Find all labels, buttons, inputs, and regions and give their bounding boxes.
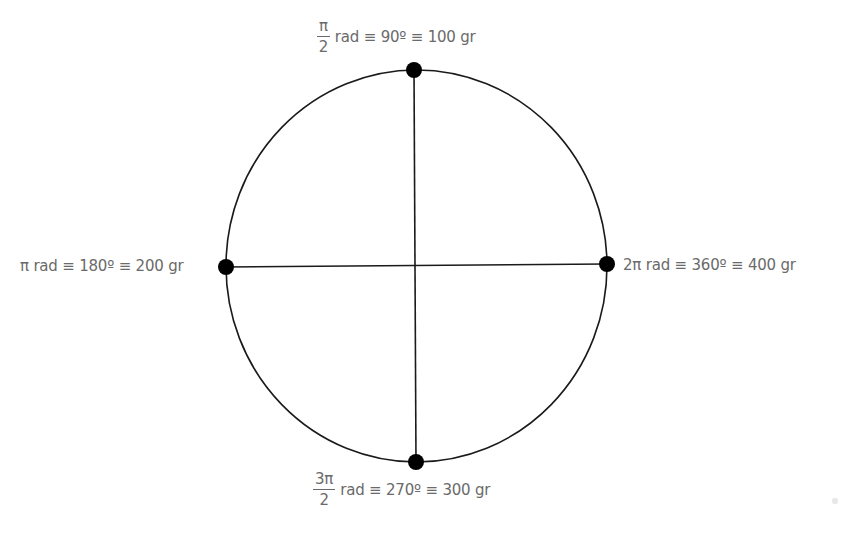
label-right: 2π rad ≡ 360º ≡ 400 gr — [623, 256, 796, 274]
label-top-text: rad ≡ 90º ≡ 100 gr — [335, 28, 476, 46]
point-right-360deg — [599, 256, 615, 272]
fraction-numerator: 3π — [313, 472, 335, 490]
label-bottom: 3π 2 rad ≡ 270º ≡ 300 gr — [313, 472, 490, 508]
point-left-180deg — [218, 259, 234, 275]
label-top: π 2 rad ≡ 90º ≡ 100 gr — [317, 19, 476, 55]
label-right-text: 2π rad ≡ 360º ≡ 400 gr — [623, 256, 796, 274]
label-bottom-text: rad ≡ 270º ≡ 300 gr — [340, 481, 490, 499]
unit-circle-diagram: π 2 rad ≡ 90º ≡ 100 gr π rad ≡ 180º ≡ 20… — [0, 0, 843, 537]
horizontal-diameter — [226, 264, 607, 267]
fraction-denominator: 2 — [319, 37, 328, 55]
fraction-denominator: 2 — [319, 490, 328, 508]
label-left: π rad ≡ 180º ≡ 200 gr — [20, 257, 183, 275]
scan-artifact — [832, 498, 838, 504]
fraction-numerator: π — [317, 19, 330, 37]
point-bottom-270deg — [408, 454, 424, 470]
fraction-pi-over-2: π 2 — [317, 19, 330, 55]
point-top-90deg — [406, 62, 422, 78]
label-left-text: π rad ≡ 180º ≡ 200 gr — [20, 257, 183, 275]
fraction-3pi-over-2: 3π 2 — [313, 472, 335, 508]
